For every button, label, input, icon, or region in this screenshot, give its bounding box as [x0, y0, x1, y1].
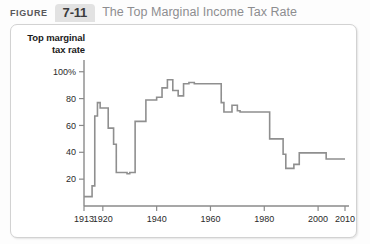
x-tick-label: 2010: [335, 214, 355, 224]
figure-number-tab: 7-11: [55, 4, 96, 23]
x-tick-label: 1920: [93, 214, 113, 224]
chart-panel: Top marginal tax rate Year 20406080100%1…: [10, 24, 357, 238]
y-tick-label: 40: [66, 147, 76, 157]
x-tick-label: 1940: [147, 214, 167, 224]
y-tick-label: 100%: [53, 67, 76, 77]
x-tick-label: 1980: [254, 214, 274, 224]
data-line-top-marginal-tax-rate: [84, 80, 345, 197]
x-tick-label: 1913: [74, 214, 94, 224]
figure-header: FIGURE 7-11 The Top Marginal Income Tax …: [10, 3, 297, 23]
x-tick-label: 2000: [308, 214, 328, 224]
figure-title: The Top Marginal Income Tax Rate: [102, 6, 297, 20]
figure-container: FIGURE 7-11 The Top Marginal Income Tax …: [0, 0, 370, 244]
y-tick-label: 20: [66, 174, 76, 184]
x-tick-label: 1960: [200, 214, 220, 224]
tax-rate-line-chart: 20406080100%1913192019401960198020002010: [11, 25, 358, 239]
y-tick-label: 60: [66, 121, 76, 131]
y-tick-label: 80: [66, 94, 76, 104]
figure-label: FIGURE: [10, 8, 48, 18]
